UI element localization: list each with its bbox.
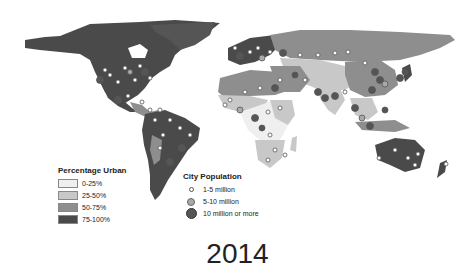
legend-urban-label: 25-50% [82,192,106,199]
legend-urban-item: 50-75% [58,202,126,213]
legend-city-item: 1-5 million [183,184,259,195]
medium-city-dot-icon [187,198,195,206]
region-madagascar [290,136,297,152]
small-city-dot-icon [189,187,194,192]
region-india [318,88,345,115]
legend-urban-label: 50-75% [82,204,106,211]
legend-percentage-urban: Percentage Urban 0-25% 25-50% 50-75% 75-… [58,166,126,226]
region-south-africa [255,140,285,168]
region-russia [270,30,455,62]
legend-urban-item: 25-50% [58,190,126,201]
legend-urban-label: 0-25% [82,180,102,187]
legend-city-label: 5-10 million [203,198,239,205]
legend-urban-item: 75-100% [58,214,126,225]
legend-swatch [58,203,78,212]
year-label: 2014 [0,238,475,270]
legend-swatch [58,215,78,224]
legend-urban-label: 75-100% [82,216,110,223]
region-indonesia [355,120,410,132]
legend-urban-title: Percentage Urban [58,166,126,175]
legend-city-label: 10 million or more [203,210,259,217]
legend-city-item: 5-10 million [183,196,259,207]
legend-swatch [58,179,78,188]
legend-urban-item: 0-25% [58,178,126,189]
legend-swatch [58,191,78,200]
legend-city-item: 10 million or more [183,208,259,219]
large-city-dot-icon [186,208,197,219]
legend-city-label: 1-5 million [203,186,235,193]
legend-city-title: City Population [183,172,259,181]
legend-city-population: City Population 1-5 million 5-10 million… [183,172,259,220]
